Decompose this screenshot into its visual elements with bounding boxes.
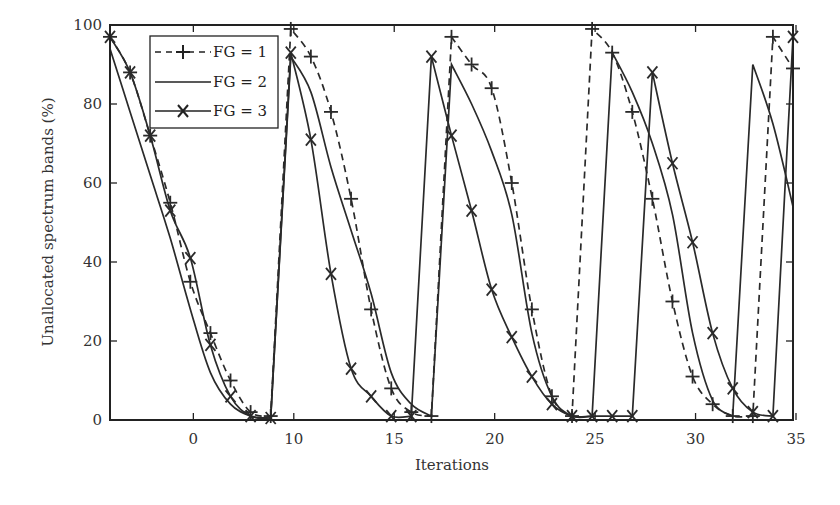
plus-marker-icon (686, 370, 700, 384)
cross-marker-icon (507, 331, 517, 343)
plus-marker-icon (163, 196, 177, 210)
legend: FG = 1 FG = 2 FG = 3 (150, 36, 278, 128)
line-chart: 0204060801000101520253035 Iterations Una… (0, 0, 840, 505)
plus-marker-icon (344, 192, 358, 206)
cross-marker-icon (185, 252, 195, 264)
x-tick-label: 30 (686, 430, 705, 448)
x-tick-label: 25 (586, 430, 605, 448)
cross-marker-icon (667, 157, 677, 169)
cross-marker-icon (487, 284, 497, 296)
legend-label-fg1: FG = 1 (213, 43, 267, 61)
plus-marker-icon (324, 105, 338, 119)
y-tick-label: 40 (83, 253, 102, 271)
plus-marker-icon (645, 192, 659, 206)
cross-marker-icon (346, 363, 356, 375)
cross-marker-icon (205, 339, 215, 351)
x-tick-label: 35 (786, 430, 805, 448)
x-tick-label: 10 (284, 430, 303, 448)
plus-marker-icon (665, 295, 679, 309)
y-tick-label: 80 (83, 95, 102, 113)
y-tick-label: 100 (73, 16, 102, 34)
cross-marker-icon (708, 327, 718, 339)
cross-marker-icon (366, 390, 376, 402)
y-tick-label: 60 (83, 174, 102, 192)
x-tick-label: 15 (385, 430, 404, 448)
y-axis-label: Unallocated spectrum bands (%) (39, 97, 57, 346)
plus-marker-icon (505, 176, 519, 190)
y-tick-label: 0 (92, 411, 102, 429)
plus-marker-icon (485, 81, 499, 95)
plus-marker-icon (445, 30, 459, 44)
cross-marker-icon (527, 371, 537, 383)
cross-marker-icon (688, 236, 698, 248)
plus-marker-icon (304, 50, 318, 64)
legend-label-fg3: FG = 3 (213, 102, 267, 120)
x-tick-label: 0 (189, 430, 199, 448)
cross-marker-icon (226, 390, 236, 402)
y-tick-label: 20 (83, 332, 102, 350)
x-tick-label: 20 (485, 430, 504, 448)
cross-marker-icon (467, 205, 477, 217)
legend-label-fg2: FG = 2 (213, 73, 267, 91)
plus-marker-icon (766, 30, 780, 44)
x-axis-label: Iterations (415, 456, 489, 474)
plus-marker-icon (625, 105, 639, 119)
cross-marker-icon (728, 382, 738, 394)
